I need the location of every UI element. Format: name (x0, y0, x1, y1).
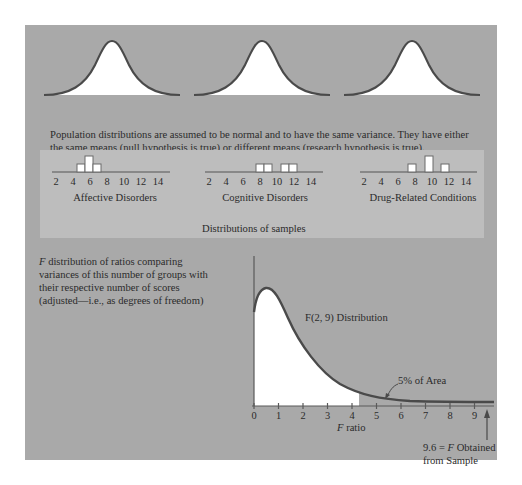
tick-label: 7 (418, 410, 434, 421)
tick-label: 3 (320, 410, 336, 421)
obtained-f-line-2: from Sample (423, 454, 495, 467)
obtained-f-arrowhead (484, 409, 490, 418)
tick-label: 9 (467, 410, 483, 421)
tick-label: 4 (344, 410, 360, 421)
obtained-f-value: 9.6 = (423, 442, 448, 453)
x-axis-title-text: ratio (343, 422, 365, 433)
tick-label: 8 (442, 410, 458, 421)
obtained-f-line-1: 9.6 = F Obtained (423, 441, 495, 454)
non-rejection-area (254, 288, 359, 406)
obtained-f-label: 9.6 = F Obtained from Sample (423, 441, 495, 467)
area-label: 5% of Area (398, 375, 446, 386)
x-axis-title: F ratio (337, 422, 366, 433)
tick-label: 5 (369, 410, 385, 421)
obtained-f-text: Obtained (454, 442, 495, 453)
tick-label: 6 (393, 410, 409, 421)
tick-label: 0 (246, 410, 262, 421)
distribution-label: F(2, 9) Distribution (305, 312, 388, 323)
tick-label: 2 (295, 410, 311, 421)
tick-label: 1 (271, 410, 287, 421)
